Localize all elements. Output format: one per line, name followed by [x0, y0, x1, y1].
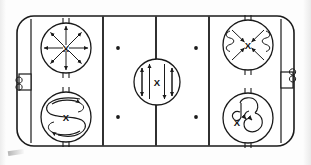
center-mark-top-left: X — [63, 43, 70, 54]
center-mark-top-right: X — [245, 40, 252, 51]
center-mark-bottom-left: X — [63, 112, 70, 123]
neutral-dot-top-left — [116, 46, 120, 50]
center-mark-center: X — [154, 77, 161, 88]
hockey-rink-diagram: X X — [0, 0, 311, 165]
neutral-dot-bottom-right — [194, 115, 198, 119]
neutral-dot-bottom-left — [116, 115, 120, 119]
neutral-dot-top-right — [194, 46, 198, 50]
center-mark-bottom-right: X — [234, 117, 241, 128]
faceoff-circle-center: X — [134, 59, 180, 105]
right-goal — [281, 69, 296, 88]
rink-canvas: X X — [0, 0, 311, 165]
